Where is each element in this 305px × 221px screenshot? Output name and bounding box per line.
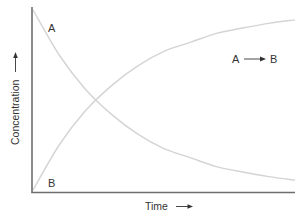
series-label-a: A bbox=[48, 22, 56, 34]
reaction-reactant: A bbox=[232, 53, 240, 65]
series-line-a bbox=[33, 10, 295, 180]
y-axis-title: Concentration bbox=[9, 52, 21, 145]
reaction-annotation: A B bbox=[232, 53, 277, 65]
concentration-time-chart: A B A B Time Concentration bbox=[0, 0, 305, 221]
x-axis-arrow-icon bbox=[188, 204, 194, 209]
y-axis-label: Concentration bbox=[9, 79, 21, 145]
reaction-arrow-head-icon bbox=[260, 57, 266, 62]
x-axis-title: Time bbox=[145, 200, 193, 212]
series-line-b bbox=[33, 20, 295, 190]
series-label-b: B bbox=[48, 177, 55, 189]
reaction-product: B bbox=[270, 53, 277, 65]
y-axis-arrow-icon bbox=[13, 52, 18, 58]
curves-group bbox=[33, 10, 295, 190]
x-axis-label: Time bbox=[145, 200, 168, 212]
